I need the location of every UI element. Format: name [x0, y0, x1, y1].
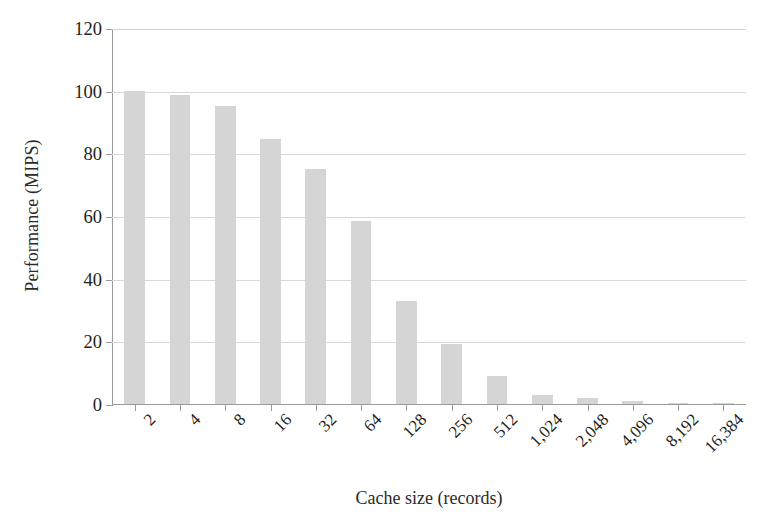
bar	[713, 403, 734, 404]
y-axis-tick	[106, 92, 112, 93]
y-axis-tick	[106, 280, 112, 281]
x-axis-tick	[361, 405, 362, 411]
bar	[668, 403, 689, 404]
x-axis-tick	[542, 405, 543, 411]
bar	[351, 221, 372, 404]
y-axis-tick	[106, 405, 112, 406]
x-axis-tick-label: 1,024	[526, 410, 567, 451]
x-axis-tick-label: 64	[360, 410, 386, 436]
y-axis-tick-label: 80	[84, 144, 103, 165]
x-axis-tick	[135, 405, 136, 411]
bar	[215, 106, 236, 404]
x-axis-title: Cache size (records)	[112, 488, 746, 509]
plot-area: 020406080100120	[112, 29, 746, 405]
x-axis-tick-label: 2	[140, 410, 160, 430]
x-axis-tick	[678, 405, 679, 411]
bar	[532, 395, 553, 404]
y-axis-tick	[106, 154, 112, 155]
x-axis-tick	[588, 405, 589, 411]
gridline	[112, 154, 746, 155]
x-axis-tick	[723, 405, 724, 411]
bar	[441, 344, 462, 404]
y-axis-tick-label: 100	[74, 81, 102, 102]
gridline	[112, 29, 746, 30]
bar	[577, 398, 598, 404]
x-axis-tick-label: 512	[490, 410, 522, 442]
y-axis-tick	[106, 342, 112, 343]
bar	[124, 91, 145, 404]
x-axis-tick	[497, 405, 498, 411]
bar	[305, 169, 326, 404]
x-axis-tick	[271, 405, 272, 411]
x-axis-tick	[406, 405, 407, 411]
y-axis-tick-label: 20	[84, 332, 103, 353]
x-axis-tick	[180, 405, 181, 411]
x-axis-tick	[452, 405, 453, 411]
x-axis-line	[112, 404, 746, 405]
x-axis-tick-label: 256	[445, 410, 477, 442]
x-axis-tick-label: 2,048	[571, 410, 612, 451]
y-axis-tick-label: 120	[74, 19, 102, 40]
y-axis-tick-label: 0	[93, 395, 102, 416]
y-axis-tick	[106, 29, 112, 30]
gridline	[112, 280, 746, 281]
x-axis-tick	[316, 405, 317, 411]
bar	[622, 401, 643, 404]
x-axis-tick-label: 4,096	[617, 410, 658, 451]
gridline	[112, 92, 746, 93]
y-axis-tick-label: 40	[84, 269, 103, 290]
x-axis-tick-label: 32	[315, 410, 341, 436]
x-axis-tick-label: 16,384	[701, 410, 748, 457]
bar	[170, 95, 191, 404]
chart-figure: Performance (MIPS) 020406080100120 24816…	[0, 0, 784, 532]
bar	[487, 376, 508, 404]
x-axis-tick-label: 4	[185, 410, 205, 430]
gridline	[112, 217, 746, 218]
x-axis-tick-label: 16	[269, 410, 295, 436]
x-axis-tick	[633, 405, 634, 411]
y-axis-tick	[106, 217, 112, 218]
x-axis-tick	[225, 405, 226, 411]
y-axis-tick-label: 60	[84, 207, 103, 228]
gridline	[112, 342, 746, 343]
bar	[260, 139, 281, 404]
bar	[396, 301, 417, 404]
x-axis-tick-label: 8	[230, 410, 250, 430]
y-axis-title: Performance (MIPS)	[22, 66, 43, 366]
x-axis-tick-label: 8,192	[662, 410, 703, 451]
x-axis-tick-label: 128	[399, 410, 431, 442]
